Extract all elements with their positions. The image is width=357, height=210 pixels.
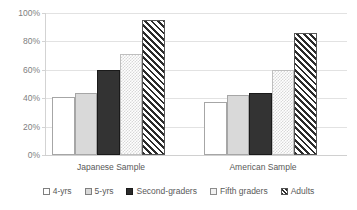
y-tick-label-60: 60% (0, 65, 40, 75)
legend-label-5-yrs: 5-yrs (95, 186, 114, 196)
x-category-label-american-sample: American Sample (204, 162, 322, 172)
legend-swatch-icon-5-yrs (85, 188, 92, 195)
legend-label-second-graders: Second-graders (136, 186, 196, 196)
legend-label-4-yrs: 4-yrs (53, 186, 72, 196)
y-tick-mark-80 (42, 41, 45, 42)
legend-item-fifth-graders[interactable]: Fifth graders (210, 186, 268, 196)
y-tick-mark-60 (42, 70, 45, 71)
legend-label-fifth-graders: Fifth graders (220, 186, 268, 196)
x-category-label-japanese-sample: Japanese Sample (52, 162, 170, 172)
y-tick-mark-100 (42, 13, 45, 14)
y-tick-mark-0 (42, 155, 45, 156)
legend-item-4-yrs[interactable]: 4-yrs (43, 186, 72, 196)
y-tick-label-20: 20% (0, 122, 40, 132)
y-tick-mark-20 (42, 127, 45, 128)
legend-swatch-icon-second-graders (126, 188, 133, 195)
legend-item-adults[interactable]: Adults (281, 186, 315, 196)
legend-swatch-icon-4-yrs (43, 188, 50, 195)
y-tick-label-0: 0% (0, 150, 40, 160)
y-tick-label-80: 80% (0, 36, 40, 46)
chart-legend: 4-yrs 5-yrs Second-graders Fifth graders… (0, 186, 357, 196)
legend-label-adults: Adults (291, 186, 315, 196)
legend-item-second-graders[interactable]: Second-graders (126, 186, 196, 196)
y-axis-ticks: 100% 80% 60% 40% 20% 0% (0, 0, 357, 210)
y-tick-label-40: 40% (0, 93, 40, 103)
legend-swatch-icon-adults (281, 188, 288, 195)
y-tick-mark-40 (42, 98, 45, 99)
bar-chart: 100% 80% 60% 40% 20% 0% Japanese Sample … (0, 0, 357, 210)
y-tick-label-100: 100% (0, 8, 40, 18)
legend-item-5-yrs[interactable]: 5-yrs (85, 186, 114, 196)
legend-swatch-icon-fifth-graders (210, 188, 217, 195)
